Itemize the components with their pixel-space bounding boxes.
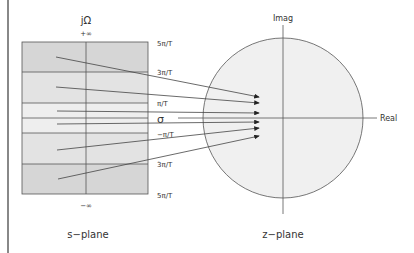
plus-infinity-label: +∞	[80, 30, 92, 38]
band-label-5pi-top: 5π/T	[157, 40, 173, 48]
imag-label: Imag	[273, 14, 293, 23]
band-label-5pi-bottom: 5π/T	[157, 192, 173, 200]
z-plane: Imag Real z−plane	[178, 14, 397, 240]
band-upper	[22, 72, 148, 103]
s-plane: jΩ +∞ −∞ 5π/T 3π/T π/T σ −π/T 3π/T 5π/T …	[22, 15, 174, 240]
s-to-z-plane-mapping-diagram: jΩ +∞ −∞ 5π/T 3π/T π/T σ −π/T 3π/T 5π/T …	[0, 0, 414, 253]
real-label: Real	[380, 114, 397, 123]
left-border-bar	[7, 0, 9, 253]
s-plane-caption: s−plane	[67, 229, 108, 240]
band-bottom	[22, 164, 148, 194]
band-label-3pi-bottom: 3π/T	[157, 161, 173, 169]
band-label-3pi-top: 3π/T	[157, 69, 173, 77]
minus-infinity-label: −∞	[80, 202, 92, 210]
band-label-pi: π/T	[157, 100, 169, 108]
band-top	[22, 42, 148, 72]
sigma-label: σ	[157, 113, 164, 126]
z-plane-caption: z−plane	[262, 229, 303, 240]
j-omega-label: jΩ	[80, 15, 92, 26]
band-lower	[22, 133, 148, 164]
